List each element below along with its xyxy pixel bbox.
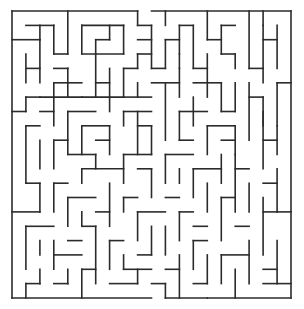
maze-walls — [0, 0, 304, 309]
maze — [0, 0, 304, 309]
